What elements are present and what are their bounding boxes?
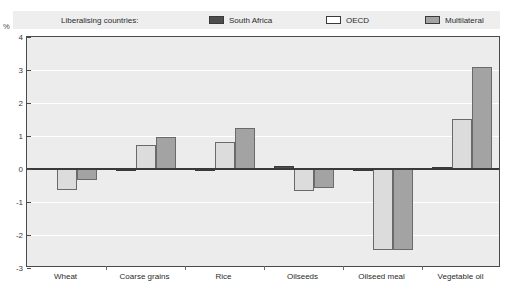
y-tick-mark bbox=[27, 70, 31, 71]
x-axis-group-separator bbox=[422, 266, 423, 270]
y-tick-mark bbox=[27, 103, 31, 104]
legend-item-south-africa: South Africa bbox=[209, 16, 272, 25]
y-tick-mark bbox=[27, 268, 31, 269]
legend-swatch-oecd-icon bbox=[326, 16, 341, 24]
y-tick-label: 0 bbox=[19, 165, 23, 174]
x-tick-label-coarse-grains: Coarse grains bbox=[120, 272, 170, 281]
chart-legend: Liberalising countries: South Africa OEC… bbox=[13, 11, 500, 29]
bar-rice-multilateral bbox=[235, 128, 255, 169]
zero-baseline bbox=[27, 168, 499, 170]
bar-wheat-multilateral bbox=[77, 169, 97, 180]
bar-coarse-grains-multilateral bbox=[156, 137, 176, 169]
x-tick-label-oilseed-meal: Oilseed meal bbox=[358, 272, 405, 281]
bar-wheat-oecd bbox=[57, 169, 77, 190]
legend-swatch-south-africa-icon bbox=[209, 16, 224, 24]
x-tick-label-vegetable-oil: Vegetable oil bbox=[438, 272, 484, 281]
bar-oilseed-meal-multilateral bbox=[393, 169, 413, 250]
y-tick-mark bbox=[27, 136, 31, 137]
y-tick-mark bbox=[27, 37, 31, 38]
y-tick-label: -2 bbox=[16, 231, 23, 240]
y-tick-label: 3 bbox=[19, 66, 23, 75]
bar-vegetable-oil-oecd bbox=[452, 119, 472, 169]
bar-coarse-grains-oecd bbox=[136, 145, 156, 169]
y-tick-mark bbox=[27, 169, 31, 170]
bar-layer bbox=[27, 37, 499, 266]
legend-label-multilateral: Multilateral bbox=[445, 16, 484, 25]
y-tick-label: -3 bbox=[16, 264, 23, 273]
x-axis-group-separator bbox=[185, 266, 186, 270]
bar-oilseeds-multilateral bbox=[314, 169, 334, 188]
x-axis-labels: WheatCoarse grainsRiceOilseedsOilseed me… bbox=[26, 272, 500, 286]
legend-title: Liberalising countries: bbox=[61, 16, 138, 25]
bar-oilseeds-oecd bbox=[294, 169, 314, 191]
x-axis-group-separator bbox=[264, 266, 265, 270]
bar-oilseed-meal-oecd bbox=[373, 169, 393, 250]
plot-area: 43210-1-2-3 bbox=[26, 36, 500, 267]
y-tick-mark bbox=[27, 235, 31, 236]
legend-item-multilateral: Multilateral bbox=[425, 16, 484, 25]
y-tick-label: -1 bbox=[16, 198, 23, 207]
y-tick-label: 2 bbox=[19, 99, 23, 108]
x-axis-group-separator bbox=[106, 266, 107, 270]
legend-swatch-multilateral-icon bbox=[425, 16, 440, 24]
y-tick-label: 4 bbox=[19, 33, 23, 42]
plot-area-wrapper: 43210-1-2-3 bbox=[26, 36, 500, 267]
x-tick-label-oilseeds: Oilseeds bbox=[287, 272, 318, 281]
cut-off-title-strip bbox=[0, 0, 505, 9]
legend-item-oecd: OECD bbox=[326, 16, 369, 25]
bar-vegetable-oil-multilateral bbox=[472, 67, 492, 169]
x-tick-label-rice: Rice bbox=[215, 272, 231, 281]
legend-label-south-africa: South Africa bbox=[229, 16, 272, 25]
x-tick-label-wheat: Wheat bbox=[54, 272, 77, 281]
bar-rice-oecd bbox=[215, 142, 235, 169]
y-axis-unit-label: % bbox=[3, 22, 10, 31]
x-axis-group-separator bbox=[343, 266, 344, 270]
legend-label-oecd: OECD bbox=[346, 16, 369, 25]
y-tick-label: 1 bbox=[19, 132, 23, 141]
y-tick-mark bbox=[27, 202, 31, 203]
